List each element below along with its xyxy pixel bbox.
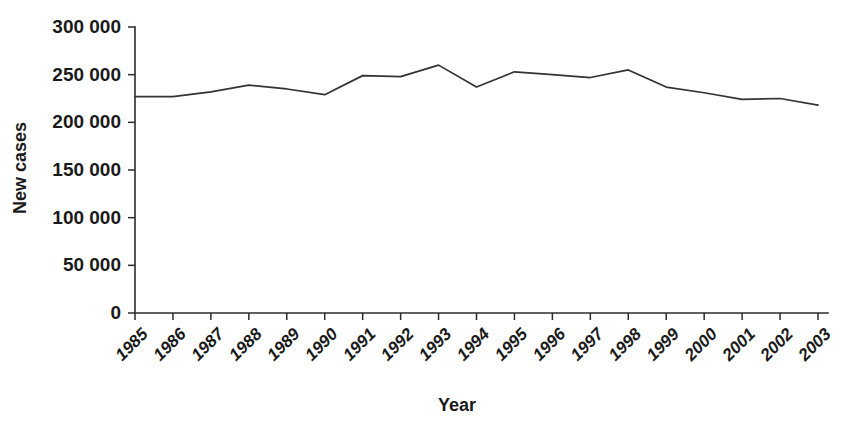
- y-axis-tick-label: 250 000: [52, 64, 121, 85]
- y-axis-title: New cases: [10, 122, 30, 214]
- x-axis-tick-labels: 1985198619871988198919901991199219931994…: [112, 323, 836, 365]
- x-axis-tick-label: 1993: [415, 324, 456, 365]
- y-axis-tick-label: 0: [110, 302, 121, 323]
- y-axis-tick-labels: 050 000100 000150 000200 000250 000300 0…: [52, 16, 121, 323]
- y-axis-ticks: [128, 27, 135, 313]
- x-axis-tick-label: 1986: [150, 324, 191, 365]
- y-axis-tick-label: 300 000: [52, 16, 121, 37]
- x-axis-tick-label: 1991: [339, 324, 379, 364]
- y-axis-tick-label: 200 000: [52, 111, 121, 132]
- y-axis-tick-label: 100 000: [52, 207, 121, 228]
- x-axis-tick-label: 1988: [225, 324, 266, 365]
- y-axis-tick-label: 50 000: [63, 254, 121, 275]
- x-axis-title: Year: [438, 395, 476, 415]
- x-axis-tick-label: 1997: [567, 323, 608, 364]
- x-axis-tick-label: 1992: [377, 324, 418, 365]
- x-axis-tick-label: 2001: [718, 324, 759, 365]
- x-axis-ticks: [135, 313, 818, 320]
- x-axis-tick-label: 1994: [453, 324, 494, 365]
- x-axis-tick-label: 1996: [529, 324, 570, 365]
- data-series-line: [135, 65, 818, 105]
- y-axis-tick-label: 150 000: [52, 159, 121, 180]
- x-axis-tick-label: 1990: [301, 324, 342, 365]
- chart-figure: 050 000100 000150 000200 000250 000300 0…: [0, 0, 845, 430]
- x-axis-tick-label: 1999: [643, 324, 684, 365]
- x-axis-tick-label: 1998: [605, 324, 646, 365]
- line-chart-canvas: 050 000100 000150 000200 000250 000300 0…: [0, 0, 845, 430]
- x-axis-tick-label: 2000: [680, 324, 721, 365]
- x-axis-tick-label: 1995: [491, 324, 532, 365]
- x-axis-tick-label: 2002: [756, 324, 797, 365]
- x-axis-tick-label: 1989: [263, 324, 304, 365]
- x-axis-tick-label: 1987: [188, 323, 229, 364]
- x-axis-tick-label: 1985: [112, 324, 153, 365]
- x-axis-tick-label: 2003: [794, 324, 835, 365]
